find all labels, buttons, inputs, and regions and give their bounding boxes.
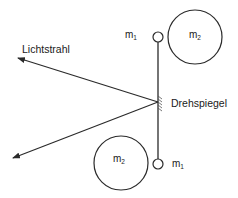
large-mass-bottom-label: m2 (113, 153, 125, 165)
small-mass-bottom (153, 159, 163, 169)
small-mass-top-label: m1 (125, 29, 137, 41)
mirror-label: Drehspiegel (171, 97, 227, 109)
small-mass-bottom-label: m1 (172, 158, 184, 170)
light-ray-reflected (13, 102, 158, 158)
large-mass-top-label: m2 (189, 29, 201, 41)
light-ray-incoming (18, 58, 158, 102)
light-ray-label: Lichtstrahl (22, 43, 70, 55)
small-mass-top (153, 32, 163, 42)
torsion-balance-diagram: Lichtstrahl Drehspiegel m1 m2 m2 m1 (0, 0, 238, 198)
